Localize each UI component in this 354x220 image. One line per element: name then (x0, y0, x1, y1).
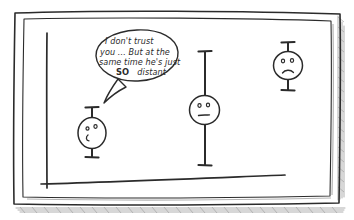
middle-error-bar-bottom-cap (199, 165, 212, 166)
speech-line-4-rest: distant (137, 67, 166, 77)
x-axis (41, 175, 285, 184)
speech-emphasis: SO (116, 67, 129, 77)
middle-mouth-flat (199, 115, 210, 116)
cartoon-scene: I don't trust you ... But at the same ti… (0, 0, 354, 220)
speech-bubble-tail (104, 79, 126, 103)
data-point-middle (190, 51, 220, 166)
right-error-bar-top-cap (282, 42, 295, 43)
data-point-left (78, 107, 106, 158)
left-error-bar-top-cap (86, 107, 99, 108)
whiteboard-inner-frame (23, 18, 332, 198)
middle-face-circle (190, 96, 220, 125)
whiteboard-outer-frame (14, 11, 341, 205)
middle-error-bar-top-cap (199, 51, 212, 52)
speech-line-2: you ... But at the (99, 47, 170, 57)
speech-line-3: same time he's just (99, 57, 181, 67)
right-error-bar-bottom-cap (282, 90, 295, 91)
speech-line-1: I don't trust (105, 36, 154, 46)
left-error-bar-bottom-cap (86, 157, 99, 158)
left-face-circle (78, 118, 106, 149)
speech-bubble-group: I don't trust you ... But at the same ti… (96, 30, 181, 103)
right-face-circle (274, 52, 303, 80)
data-point-right (274, 42, 303, 91)
cartoon-canvas: I don't trust you ... But at the same ti… (0, 0, 354, 220)
